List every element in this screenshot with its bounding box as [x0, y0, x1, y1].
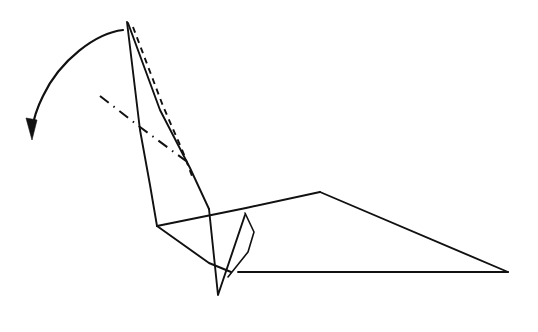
origami-line-drawing	[0, 0, 538, 332]
origami-diagram-figure	[0, 0, 538, 332]
